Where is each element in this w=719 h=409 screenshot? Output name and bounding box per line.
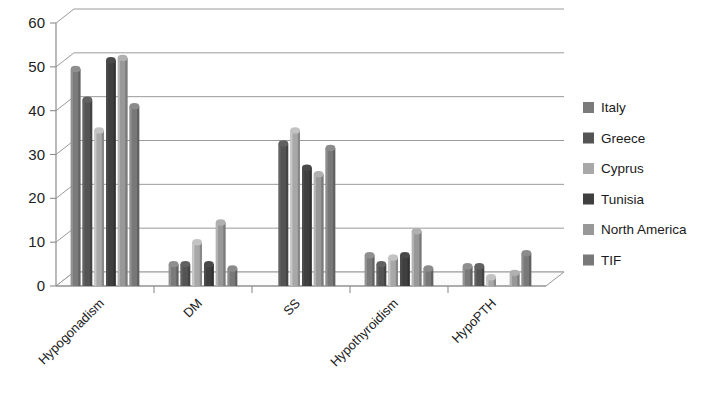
bar bbox=[216, 219, 226, 286]
legend-swatch bbox=[583, 102, 594, 113]
legend-label: Greece bbox=[601, 131, 645, 146]
chart-canvas: 0102030405060HypogonadismDMSSHypothyroid… bbox=[0, 0, 719, 409]
bar-highlight bbox=[424, 268, 426, 286]
bar-cap bbox=[83, 97, 93, 103]
bar-highlight bbox=[204, 264, 206, 286]
x-category-label: Hypothyroidism bbox=[327, 296, 401, 370]
legend-item[interactable]: Tunisia bbox=[583, 192, 645, 207]
bar bbox=[130, 103, 140, 286]
bar-cap bbox=[463, 263, 473, 269]
bar bbox=[314, 171, 324, 286]
bar-shadow bbox=[200, 242, 202, 286]
legend-label: North America bbox=[601, 222, 687, 237]
bar bbox=[118, 55, 128, 286]
legend-item[interactable]: Italy bbox=[583, 100, 626, 115]
legend-item[interactable]: Cyprus bbox=[583, 161, 644, 176]
legend-label: TIF bbox=[601, 253, 621, 268]
bar-highlight bbox=[169, 264, 171, 286]
bar-shadow bbox=[372, 255, 374, 286]
legend-swatch bbox=[583, 224, 594, 235]
gridline-connector-50 bbox=[56, 53, 74, 67]
x-category-label: DM bbox=[180, 296, 205, 321]
bar-highlight bbox=[475, 266, 477, 286]
bar-shadow bbox=[286, 144, 288, 286]
bar-highlight bbox=[106, 60, 108, 286]
bar bbox=[475, 263, 485, 286]
bar-cap bbox=[71, 66, 81, 72]
legend-swatch bbox=[583, 194, 594, 205]
bar-cap bbox=[302, 164, 312, 170]
bar-shadow bbox=[176, 264, 178, 286]
bar-cap bbox=[412, 228, 422, 234]
bar-cap bbox=[475, 263, 485, 269]
bar-shadow bbox=[137, 106, 139, 286]
bar-shadow bbox=[212, 264, 214, 286]
bar-cap bbox=[486, 274, 496, 280]
bar-highlight bbox=[377, 264, 379, 286]
bar-cap bbox=[94, 127, 104, 133]
bar-shadow bbox=[188, 264, 190, 286]
legend-item[interactable]: TIF bbox=[583, 253, 621, 268]
bar-cap bbox=[169, 261, 179, 267]
x-category-label: Hypogonadism bbox=[35, 296, 107, 368]
bar-cap bbox=[130, 103, 140, 109]
bar-cap bbox=[377, 261, 387, 267]
bar-cap bbox=[522, 250, 532, 256]
legend-label: Italy bbox=[601, 100, 626, 115]
bar-cap bbox=[388, 254, 398, 260]
bar-shadow bbox=[90, 100, 92, 286]
bar-highlight bbox=[412, 231, 414, 286]
y-tick-label: 30 bbox=[28, 146, 45, 163]
x-category-label: HypoPTH bbox=[449, 296, 499, 346]
bar bbox=[279, 140, 289, 286]
bar bbox=[83, 97, 93, 286]
bar-cap bbox=[106, 57, 116, 63]
bar-highlight bbox=[365, 255, 367, 286]
bar-cap bbox=[290, 127, 300, 133]
bar-cap bbox=[510, 270, 520, 276]
bar-cap bbox=[400, 252, 410, 258]
bar-highlight bbox=[279, 144, 281, 286]
bar-shadow bbox=[470, 266, 472, 286]
bar bbox=[228, 265, 238, 286]
legend-group: ItalyGreeceCyprusTunisiaNorth AmericaTIF bbox=[583, 100, 687, 268]
legend-label: Tunisia bbox=[601, 192, 645, 207]
bar-cap bbox=[424, 265, 434, 271]
bar-highlight bbox=[83, 100, 85, 286]
bar bbox=[204, 261, 214, 286]
legend-swatch bbox=[583, 163, 594, 174]
bars-group bbox=[71, 55, 531, 286]
bar-cap bbox=[365, 252, 375, 258]
bar-shadow bbox=[529, 253, 531, 286]
bar bbox=[302, 164, 312, 286]
bar bbox=[463, 263, 473, 286]
bar-shadow bbox=[78, 69, 80, 286]
bar-shadow bbox=[384, 264, 386, 286]
bar-cap bbox=[216, 219, 226, 225]
bar-shadow bbox=[102, 130, 104, 286]
bar bbox=[169, 261, 179, 286]
bar-shadow bbox=[235, 268, 237, 286]
bar bbox=[424, 265, 434, 286]
bar-shadow bbox=[333, 148, 335, 286]
y-tick-label: 20 bbox=[28, 189, 45, 206]
y-tick-label: 10 bbox=[28, 233, 45, 250]
bar bbox=[326, 145, 336, 286]
bar-cap bbox=[228, 265, 238, 271]
bar-highlight bbox=[388, 258, 390, 286]
legend-swatch bbox=[583, 133, 594, 144]
bar-cap bbox=[181, 261, 191, 267]
y-tick-label: 0 bbox=[37, 277, 45, 294]
bar-shadow bbox=[482, 266, 484, 286]
legend-item[interactable]: Greece bbox=[583, 131, 645, 146]
bar bbox=[522, 250, 532, 286]
bar-shadow bbox=[419, 231, 421, 286]
bar-shadow bbox=[125, 58, 127, 286]
bar-highlight bbox=[290, 130, 292, 286]
bar-highlight bbox=[181, 264, 183, 286]
bar-shadow bbox=[223, 222, 225, 286]
bar-cap bbox=[118, 55, 128, 61]
bar bbox=[412, 228, 422, 286]
legend-item[interactable]: North America bbox=[583, 222, 687, 237]
y-tick-label: 50 bbox=[28, 58, 45, 75]
